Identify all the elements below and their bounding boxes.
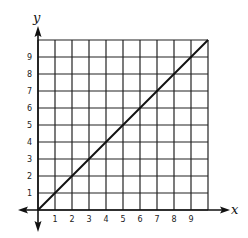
- y-tick-label: 5: [27, 121, 32, 130]
- y-tick-label: 6: [27, 104, 32, 113]
- y-tick-label: 3: [27, 155, 32, 164]
- x-tick-label: 1: [52, 215, 57, 224]
- x-tick-label: 3: [86, 215, 91, 224]
- y-tick-label: 8: [27, 70, 32, 79]
- coordinate-plane: 123456789123456789 x y: [0, 0, 248, 238]
- y-tick-label: 1: [27, 189, 32, 198]
- x-tick-label: 6: [137, 215, 142, 224]
- y-tick-label: 9: [27, 53, 32, 62]
- x-tick-label: 7: [154, 215, 159, 224]
- x-tick-label: 9: [188, 215, 193, 224]
- x-tick-label: 2: [69, 215, 74, 224]
- x-tick-label: 5: [120, 215, 125, 224]
- x-tick-label: 4: [103, 215, 108, 224]
- x-axis-label: x: [231, 202, 239, 217]
- x-tick-label: 8: [171, 215, 176, 224]
- y-tick-label: 7: [27, 87, 32, 96]
- y-tick-label: 2: [27, 172, 32, 181]
- y-tick-label: 4: [27, 138, 32, 147]
- y-axis-label: y: [32, 10, 41, 25]
